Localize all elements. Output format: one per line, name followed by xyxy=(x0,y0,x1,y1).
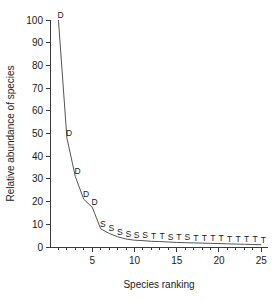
data-point-label: S xyxy=(168,232,174,242)
y-axis-title: Relative abundance of species xyxy=(5,65,16,201)
x-tick-label: 5 xyxy=(89,255,95,266)
data-point-label: T xyxy=(193,233,198,243)
data-point-label: T xyxy=(202,233,207,243)
data-point-label: S xyxy=(134,230,140,240)
data-point-label: T xyxy=(159,231,164,241)
y-tick-label: 70 xyxy=(32,83,44,94)
data-point-label: S xyxy=(117,227,123,237)
data-point-label: D xyxy=(58,10,64,20)
y-tick-label: 10 xyxy=(32,219,44,230)
data-point-label: T xyxy=(244,234,249,244)
y-tick-label: 100 xyxy=(26,15,43,26)
y-tick-label: 80 xyxy=(32,60,44,71)
data-point-label: T xyxy=(261,235,266,245)
data-point-label: T xyxy=(176,232,181,242)
data-point-label: S xyxy=(125,229,131,239)
data-point-label: T xyxy=(252,234,257,244)
data-point-label: D xyxy=(91,197,97,207)
data-point-label: S xyxy=(109,223,115,233)
data-point-label: T xyxy=(151,231,156,241)
y-tick-label: 0 xyxy=(37,242,43,253)
y-tick-label: 20 xyxy=(32,196,44,207)
data-point-label: D xyxy=(83,189,89,199)
x-tick-label: 15 xyxy=(171,255,183,266)
y-tick-label: 90 xyxy=(32,37,44,48)
data-point-label: T xyxy=(219,233,224,243)
rank-abundance-chart: 0102030405060708090100510152025DDDDDSSSS… xyxy=(0,0,276,302)
x-tick-label: 20 xyxy=(213,255,225,266)
data-point-label: S xyxy=(142,230,148,240)
data-point-label: D xyxy=(74,166,80,176)
y-tick-label: 30 xyxy=(32,173,44,184)
y-tick-label: 60 xyxy=(32,105,44,116)
data-point-label: S xyxy=(100,219,106,229)
x-tick-label: 10 xyxy=(129,255,141,266)
data-point-label: T xyxy=(227,234,232,244)
y-tick-label: 50 xyxy=(32,128,44,139)
y-tick-label: 40 xyxy=(32,151,44,162)
data-point-label: T xyxy=(210,233,215,243)
data-point-label: S xyxy=(185,232,191,242)
x-tick-label: 25 xyxy=(256,255,268,266)
chart-canvas: 0102030405060708090100510152025DDDDDSSSS… xyxy=(0,0,276,302)
data-series-line xyxy=(58,20,261,245)
data-point-label: D xyxy=(66,128,72,138)
x-axis-title: Species ranking xyxy=(123,279,194,290)
data-point-label: T xyxy=(235,234,240,244)
